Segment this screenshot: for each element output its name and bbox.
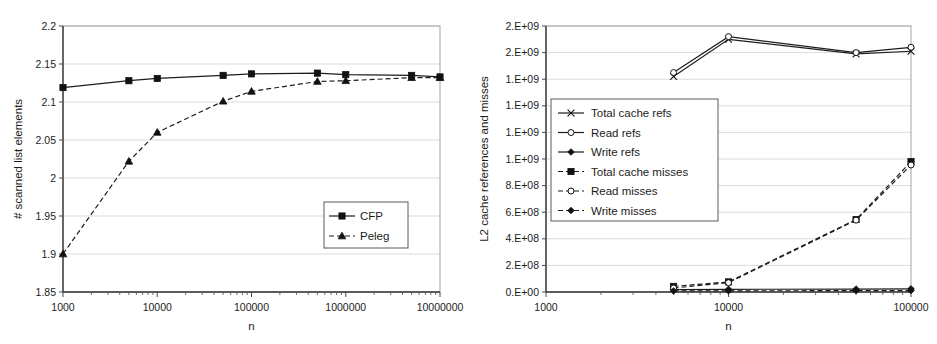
legend-label: Total cache refs <box>591 107 672 119</box>
figure-pair: 1.851.91.9522.052.12.152.210001000010000… <box>0 0 937 344</box>
legend-label: Peleg <box>360 230 389 242</box>
x-axis-ticks: 100010000100000 <box>534 292 928 313</box>
x-tick-label: 100000 <box>893 301 928 313</box>
chart-panel-left: 1.851.91.9522.052.12.152.210001000010000… <box>0 0 468 344</box>
l2-cache-references-chart: 0.E+002.E+084.E+086.E+088.E+081.E+091.E+… <box>468 0 937 344</box>
marker-square <box>220 72 226 78</box>
x-tick-label: 10000 <box>714 301 743 313</box>
axes <box>63 26 440 292</box>
y-tick-label: 2.E+09 <box>505 20 539 32</box>
y-tick-label: 2.05 <box>36 134 57 146</box>
legend-label: CFP <box>360 210 383 222</box>
series-write-misses <box>670 287 914 294</box>
marker-circle <box>908 162 914 168</box>
y-tick-label: 1.9 <box>41 248 56 260</box>
chart-panel-right: 0.E+002.E+084.E+086.E+088.E+081.E+091.E+… <box>468 0 937 344</box>
y-axis-title: L2 cache references and misses <box>478 76 490 242</box>
y-tick-label: 2.2 <box>41 20 56 32</box>
marker-triangle <box>219 97 227 104</box>
y-axis-title: # scanned list elements <box>12 99 24 219</box>
series-read-refs <box>671 34 914 76</box>
y-tick-label: 1.E+09 <box>505 73 539 85</box>
x-axis-title: n <box>725 320 731 332</box>
y-tick-label: 1.85 <box>36 286 57 298</box>
x-tick-label: 1000 <box>534 301 558 313</box>
marker-triangle <box>153 129 161 136</box>
y-tick-label: 2.1 <box>41 96 56 108</box>
marker-triangle <box>125 157 133 164</box>
series-line <box>674 289 911 290</box>
y-tick-label: 0.E+00 <box>505 286 539 298</box>
scanned-list-elements-chart: 1.851.91.9522.052.12.152.210001000010000… <box>0 0 468 344</box>
y-axis-ticks: 1.851.91.9522.052.12.152.2 <box>36 20 63 298</box>
y-tick-label: 1.95 <box>36 210 57 222</box>
y-tick-label: 1.E+09 <box>505 99 539 111</box>
legend: Total cache refsRead refsWrite refsTotal… <box>551 99 718 221</box>
marker-circle <box>726 34 732 40</box>
marker-square <box>248 71 254 77</box>
marker-square <box>568 168 574 174</box>
x-tick-label: 1000 <box>51 301 75 313</box>
y-tick-label: 6.E+08 <box>505 206 539 218</box>
gridlines <box>63 26 440 292</box>
legend: CFPPeleg <box>324 202 408 248</box>
series-total-cache-refs <box>670 36 914 80</box>
legend-label: Write misses <box>591 205 657 217</box>
legend-label: Total cache misses <box>591 166 688 178</box>
marker-square <box>154 75 160 81</box>
marker-square <box>126 78 132 84</box>
marker-circle <box>568 188 574 194</box>
marker-circle <box>726 280 732 286</box>
x-tick-label: 1000000 <box>325 301 366 313</box>
legend-label: Read misses <box>591 185 658 197</box>
marker-circle <box>908 44 914 50</box>
y-tick-label: 1.E+09 <box>505 126 539 138</box>
legend-label: Write refs <box>591 146 640 158</box>
marker-circle <box>671 70 677 76</box>
y-tick-label: 4.E+08 <box>505 232 539 244</box>
marker-triangle <box>314 78 322 85</box>
y-tick-label: 1.E+09 <box>505 153 539 165</box>
x-tick-label: 10000000 <box>417 301 464 313</box>
marker-circle <box>853 50 859 56</box>
y-tick-label: 2 <box>50 172 56 184</box>
marker-square <box>339 213 345 219</box>
plot-area-border <box>63 26 440 292</box>
series-line <box>674 37 911 73</box>
marker-circle <box>568 130 574 136</box>
y-tick-label: 2.15 <box>36 58 57 70</box>
y-tick-label: 2.E+09 <box>505 46 539 58</box>
x-axis-title: n <box>248 320 254 332</box>
marker-square <box>60 84 66 90</box>
legend-label: Read refs <box>591 127 641 139</box>
marker-circle <box>853 217 859 223</box>
x-tick-label: 10000 <box>143 301 172 313</box>
x-tick-label: 100000 <box>234 301 269 313</box>
x-axis-ticks: 100010000100000100000010000000 <box>51 292 463 313</box>
marker-square <box>314 70 320 76</box>
y-axis-ticks: 0.E+002.E+084.E+086.E+088.E+081.E+091.E+… <box>505 20 546 298</box>
y-tick-label: 8.E+08 <box>505 179 539 191</box>
y-tick-label: 2.E+08 <box>505 259 539 271</box>
